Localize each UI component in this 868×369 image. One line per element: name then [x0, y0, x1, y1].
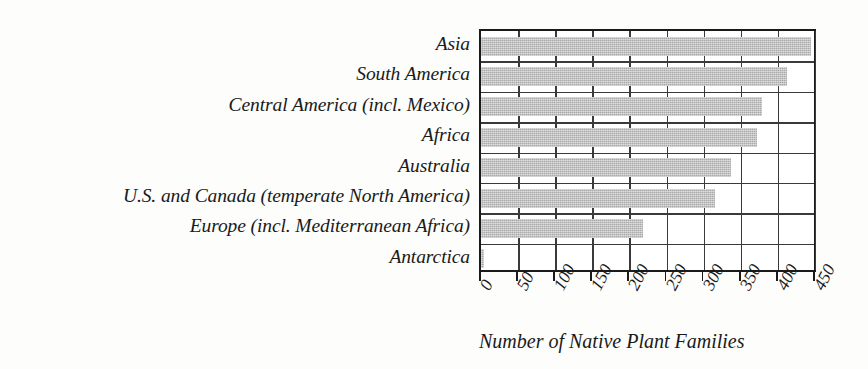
horizontal-gridline [481, 61, 814, 62]
category-label: Africa [422, 120, 470, 150]
horizontal-gridline [481, 92, 814, 93]
x-axis-tick-label: 0 [475, 276, 498, 294]
x-axis-title: Number of Native Plant Families [479, 330, 859, 353]
plot-area [479, 29, 816, 272]
bar [481, 219, 643, 238]
horizontal-gridline [481, 183, 814, 184]
bar [481, 67, 787, 86]
plot-inner [481, 31, 814, 270]
category-label: Antarctica [389, 242, 470, 272]
bar [481, 189, 715, 208]
horizontal-gridline [481, 122, 814, 123]
horizontal-gridline [481, 153, 814, 154]
vertical-gridline [815, 31, 816, 270]
category-label: Australia [398, 151, 470, 181]
category-label: U.S. and Canada (temperate North America… [123, 181, 470, 211]
bar [481, 97, 762, 116]
bar [481, 37, 811, 56]
bar [481, 249, 484, 268]
horizontal-gridline [481, 244, 814, 245]
category-label: Central America (incl. Mexico) [229, 90, 470, 120]
category-label: South America [356, 59, 470, 89]
category-label: Europe (incl. Mediterranean Africa) [190, 211, 470, 241]
chart-figure: AsiaSouth AmericaCentral America (incl. … [0, 0, 868, 369]
category-label: Asia [436, 29, 470, 59]
bar [481, 128, 757, 147]
category-axis-labels: AsiaSouth AmericaCentral America (incl. … [0, 29, 476, 272]
horizontal-gridline [481, 213, 814, 214]
bar [481, 158, 731, 177]
